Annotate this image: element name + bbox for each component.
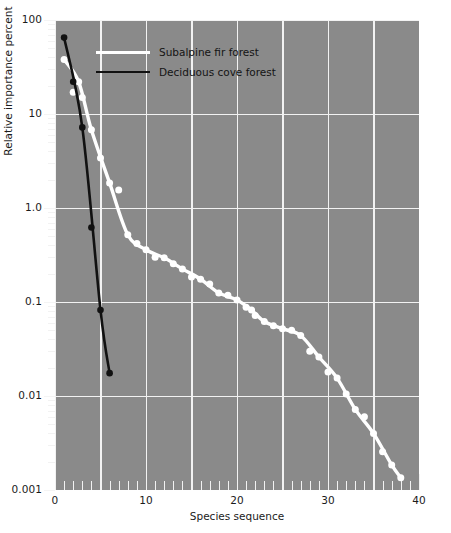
data-series-layer — [55, 20, 419, 490]
y-axis-title: Relative importance percent — [2, 0, 14, 168]
legend-label: Subalpine fir forest — [159, 46, 259, 58]
y-axis-ticks — [44, 20, 55, 490]
legend-item-deciduous-cove-forest: Deciduous cove forest — [96, 62, 276, 82]
legend-swatch-black-line — [96, 71, 150, 73]
x-tick-label: 10 — [126, 494, 166, 506]
page-caption-ghost — [0, 524, 451, 533]
legend-item-subalpine-fir-forest: Subalpine fir forest — [96, 42, 276, 62]
figure-log-importance-percent: 100101.00.10.010.001 010203040 Relative … — [0, 0, 451, 533]
x-tick-label: 20 — [217, 494, 257, 506]
legend: Subalpine fir forest Deciduous cove fore… — [96, 42, 276, 82]
legend-swatch-white-line — [96, 51, 150, 54]
plot-area — [55, 20, 419, 490]
x-tick-label: 0 — [35, 494, 75, 506]
x-axis-ticks — [55, 474, 419, 490]
x-tick-label: 30 — [308, 494, 348, 506]
legend-label: Deciduous cove forest — [159, 66, 276, 78]
x-axis-title: Species sequence — [55, 510, 419, 522]
y-tick-label: 0.01 — [0, 389, 42, 401]
y-tick-label: 1.0 — [0, 201, 42, 213]
y-tick-label: 0.1 — [0, 295, 42, 307]
x-tick-label: 40 — [399, 494, 439, 506]
